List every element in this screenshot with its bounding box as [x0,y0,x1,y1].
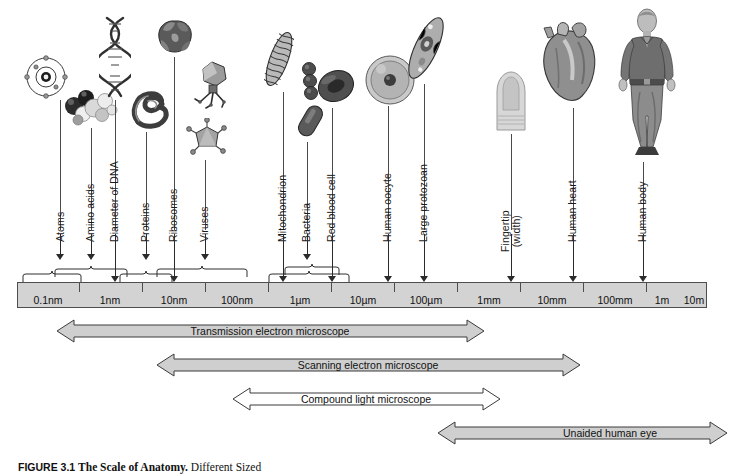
icosahedral-virus-illustration [186,118,228,158]
dna-double-helix-illustration [99,16,131,98]
tick-label-7: 1mm [477,294,500,306]
range-bar-label-eye: Unaided human eye [563,427,657,439]
brace-bacteria-group [284,264,340,275]
arrow-atoms [56,234,65,260]
label-red-blood-cell: Red blood cell [326,174,337,242]
logarithmic-size-scale[interactable]: 0.1nm 1nm 10nm 100nm 1µm 10µm 100µm 1mm … [17,282,707,308]
arrow-large-protozoan [420,234,429,282]
arrow-fingertip [507,234,516,282]
range-bar-label-clm: Compound light microscope [301,393,431,405]
figure-number: FIGURE 3.1 [18,461,75,473]
mitochondrion-illustration [264,28,294,90]
label-human-body: Human body [637,181,648,242]
tick-label-11: 10m [684,294,704,306]
arrow-bacteria [303,234,312,260]
human-body-illustration [608,8,686,160]
label-human-heart: Human heart [567,180,578,242]
label-human-oocyte: Human oocyte [382,173,393,242]
figure-subtitle: Different Sized [191,461,261,473]
tick-label-1: 1nm [100,294,120,306]
arrow-amino-acids [87,234,96,260]
arrow-human-body [639,234,648,282]
tick-label-3: 100nm [221,294,253,306]
tick-label-10: 1m [655,294,670,306]
label-diameter-of-dna: Diameter of DNA [109,161,120,242]
arrow-proteins [142,234,151,260]
range-bar-label-sem: Scanning electron microscope [298,359,439,371]
label-mitochondrion: Mitochondrion [277,175,288,242]
arrow-human-oocyte [384,234,393,282]
fingertip-illustration [489,70,533,132]
human-heart-illustration [534,18,604,108]
virus-illustration [186,60,230,112]
leader-line-atoms [60,100,61,230]
protein-illustration [128,82,174,132]
ribosome-illustration [155,18,195,56]
figure-caption: FIGURE 3.1 The Scale of Anatomy. Differe… [18,461,261,473]
tick-label-0: 0.1nm [33,294,62,306]
figure-title: The Scale of Anatomy. [78,461,188,473]
arrow-human-heart [569,234,578,282]
tick-label-2: 10nm [161,294,187,306]
tick-label-5: 10µm [350,294,376,306]
label-large-protozoan: Large protozoan [418,164,429,242]
tick-label-9: 100mm [597,294,632,306]
tick-label-8: 10mm [537,294,566,306]
arrow-viruses [201,234,210,260]
tick-label-6: 100µm [410,294,442,306]
red-blood-cell-illustration [316,66,356,106]
brace-ribosomes-viruses [156,266,248,277]
brace-amino-acids [54,266,128,277]
scale-of-anatomy-figure: Atoms Amino acids Diameter of DNA Protei… [0,0,739,476]
range-bar-label-tem: Transmission electron microscope [191,325,350,337]
protozoan-illustration [408,12,444,84]
tick-label-4: 1µm [290,294,311,306]
